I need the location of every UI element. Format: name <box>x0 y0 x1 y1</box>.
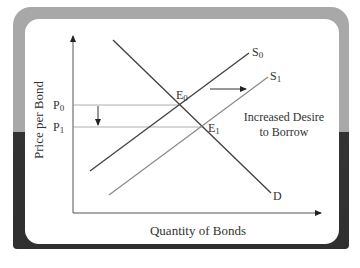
annotation-line-2: to Borrow <box>260 125 309 139</box>
e1-label: E1 <box>208 121 220 136</box>
p1-label: P1 <box>53 120 64 135</box>
p0-label: P0 <box>53 98 65 113</box>
supply-curve-0 <box>90 53 249 171</box>
s1-label: S1 <box>270 69 281 84</box>
x-axis-label: Quantity of Bonds <box>150 223 246 238</box>
y-axis-label: Price per Bond <box>31 81 46 159</box>
e0-label: E0 <box>176 88 188 103</box>
demand-label: D <box>273 189 282 203</box>
annotation-line-1: Increased Desire <box>244 110 324 124</box>
supply-curve-1 <box>109 77 268 195</box>
supply-demand-diagram: Price per Bond Quantity of Bonds P0 P1 S… <box>0 0 360 268</box>
s0-label: S0 <box>252 45 264 60</box>
